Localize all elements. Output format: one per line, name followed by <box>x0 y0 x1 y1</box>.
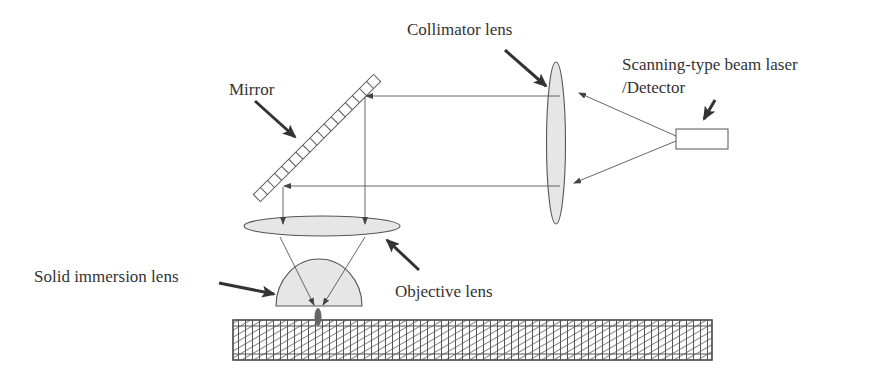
optical-system-diagram: Mirror Collimator lens Scanning-type bea… <box>0 0 872 379</box>
laser-beams <box>574 93 676 183</box>
collimated-beams <box>284 96 560 186</box>
laser-detector-box <box>676 129 728 149</box>
focus-spot-icon <box>315 308 322 326</box>
mirror-arrow-icon <box>255 101 295 137</box>
solid-immersion-lens <box>276 259 362 306</box>
collimator-lens <box>547 62 566 224</box>
label-collimator-lens: Collimator lens <box>407 20 512 39</box>
label-laser-detector-line1: Scanning-type beam laser <box>622 55 798 74</box>
collimator-arrow-icon <box>505 50 546 86</box>
label-objective-lens: Objective lens <box>395 282 493 301</box>
label-mirror: Mirror <box>229 80 275 99</box>
objective-arrow-icon <box>387 240 419 270</box>
label-laser-detector-line2: /Detector <box>622 78 686 97</box>
label-solid-immersion-lens: Solid immersion lens <box>34 267 179 286</box>
sample-substrate <box>233 320 712 360</box>
sil-arrow-icon <box>219 283 274 294</box>
objective-lens <box>244 216 400 236</box>
diagram-canvas: Mirror Collimator lens Scanning-type bea… <box>0 0 872 379</box>
laser-arrow-icon <box>704 100 715 119</box>
